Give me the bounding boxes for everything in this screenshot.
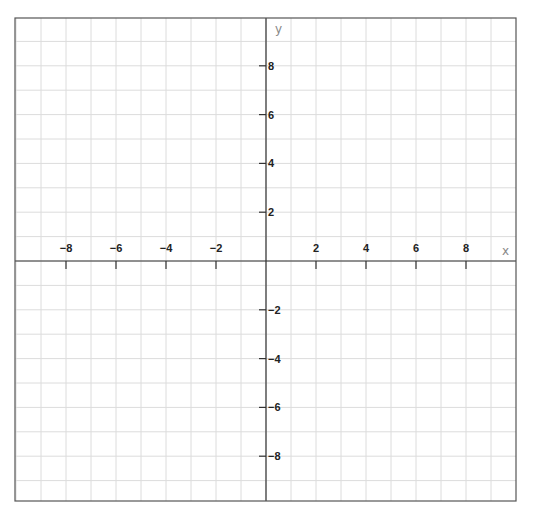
y-axis-label: y <box>275 22 282 36</box>
x-tick-label: 4 <box>363 242 370 254</box>
y-tick-label: −8 <box>268 450 281 462</box>
y-tick-label: −6 <box>268 401 281 413</box>
y-tick-label: 4 <box>268 157 275 169</box>
y-tick-label: −2 <box>268 304 281 316</box>
x-tick-label: 6 <box>413 242 419 254</box>
y-tick-label: −4 <box>268 353 281 365</box>
x-tick-label: −8 <box>60 242 73 254</box>
x-tick-label: −4 <box>160 242 173 254</box>
x-tick-label: 8 <box>463 242 469 254</box>
x-tick-label: −2 <box>210 242 223 254</box>
x-tick-label: 2 <box>313 242 319 254</box>
coordinate-plane: −8−6−4−224688642−2−4−6−8 x y <box>0 0 533 510</box>
y-tick-label: 2 <box>268 206 274 218</box>
x-axis-label: x <box>502 244 509 258</box>
y-tick-label: 8 <box>268 60 274 72</box>
x-tick-label: −6 <box>110 242 123 254</box>
y-tick-label: 6 <box>268 109 274 121</box>
